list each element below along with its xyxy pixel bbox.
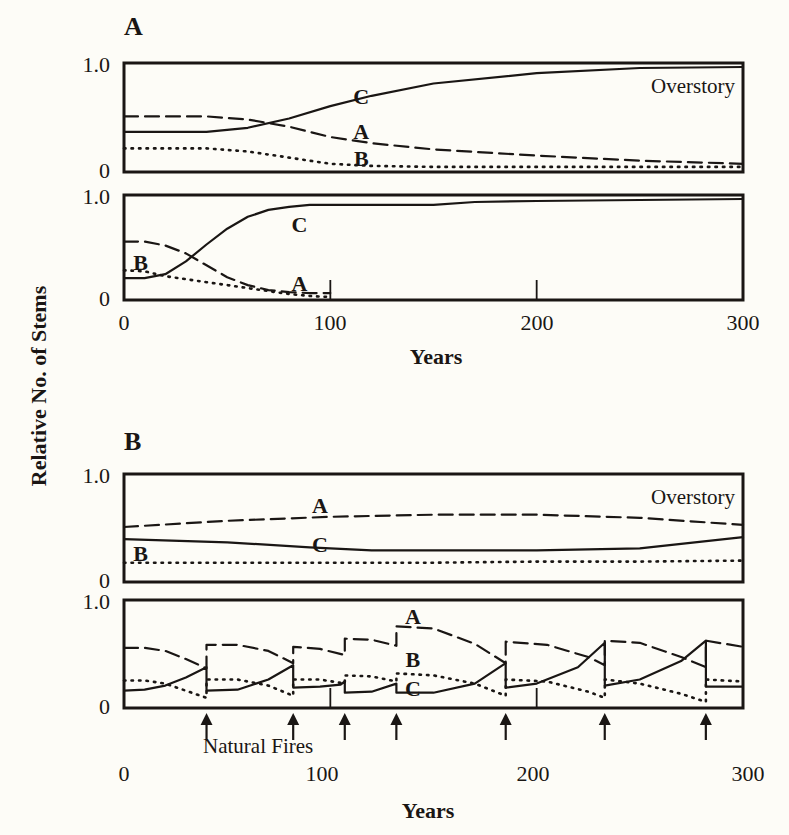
series-A-line [124,116,743,163]
x-tick-100-b: 100 [306,761,339,786]
x-axis-label-a: Years [410,344,463,369]
x-ticks-b: 0 100 200 300 [119,761,765,786]
series-label-C: C [291,212,307,237]
x-axis-label-b: Years [402,798,455,823]
y-tick-0: 0 [99,286,110,311]
x-tick-100-a: 100 [314,310,347,335]
fire-arrow-icon [500,713,512,740]
panel-title: Overstory [651,485,735,509]
y-tick-1: 1.0 [83,463,111,488]
panel-B-overstory: 01.0ACBOverstory [83,463,744,593]
natural-fires-label: Natural Fires [203,734,313,758]
series-label-A: A [353,119,369,144]
series-A-line [124,626,743,668]
series-A-line [124,515,743,527]
panel-title: Overstory [651,74,735,98]
series-label-B: B [354,146,369,171]
figure: Relative No. of Stems A B 01.0CABOversto… [0,0,789,835]
panel-A-understory: 01.0BCA [83,184,744,311]
panel-a-label: A [124,12,143,41]
panel-b-label: B [124,427,141,456]
panel-B-understory: 01.0ABC [83,589,744,740]
series-label-A: A [312,493,328,518]
series-C-line [124,199,743,278]
series-B-line [124,148,743,167]
x-tick-200-b: 200 [517,761,550,786]
series-label-B: B [133,541,148,566]
series-label-B: B [133,250,148,275]
y-tick-1: 1.0 [83,589,111,614]
y-tick-0: 0 [99,694,110,719]
fire-arrow-icon [700,713,712,740]
plot-panels: 01.0CABOverstory01.0BCA01.0ACBOverstory0… [83,52,744,740]
series-label-B: B [406,647,421,672]
series-label-C: C [405,676,421,701]
x-ticks-a: 0 100 200 300 [119,310,760,335]
x-tick-200-a: 200 [521,310,554,335]
panel-A-overstory: 01.0CABOverstory [83,52,744,183]
x-tick-0-a: 0 [119,310,130,335]
fire-arrow-icon [390,713,402,740]
fire-arrow-icon [599,713,611,740]
series-label-A: A [405,604,421,629]
series-C-line [124,537,743,550]
y-tick-1: 1.0 [83,184,111,209]
panel-frame [124,195,743,300]
fire-arrow-icon [339,713,351,740]
x-tick-300-a: 300 [727,310,760,335]
series-label-C: C [353,84,369,109]
x-tick-300-b: 300 [732,761,765,786]
y-axis-label: Relative No. of Stems [26,285,51,486]
series-label-C: C [312,532,328,557]
x-tick-0-b: 0 [119,761,130,786]
series-B-line [124,561,743,563]
y-tick-0: 0 [99,158,110,183]
y-tick-1: 1.0 [83,52,111,77]
series-B-line [124,673,743,702]
series-label-A: A [291,271,307,296]
